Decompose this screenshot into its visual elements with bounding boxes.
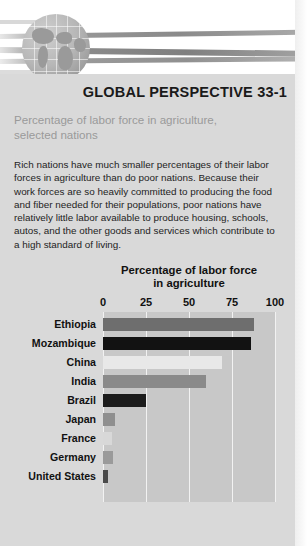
chart-row: China [0,354,295,373]
bar-chart: Percentage of labor force in agriculture… [0,258,295,538]
chart-bar [103,470,108,483]
chart-bar [103,432,112,445]
chart-row: India [0,373,295,392]
chart-category-label: France [0,432,96,444]
chart-row: Ethiopia [0,316,295,335]
page-title: GLOBAL PERSPECTIVE 33-1 [0,84,287,100]
chart-row: United States [0,468,295,487]
chart-row: Mozambique [0,335,295,354]
axis-tick-label: 0 [100,296,106,308]
chart-category-label: Germany [0,451,96,463]
axis-tick-label: 75 [226,296,238,308]
chart-bar [103,356,222,369]
axis-tick-label: 100 [266,296,284,308]
chart-bar [103,337,251,350]
chart-row: Brazil [0,392,295,411]
chart-bar [103,318,254,331]
chart-category-label: India [0,375,96,387]
chart-category-label: United States [0,470,96,482]
chart-plot-area: EthiopiaMozambiqueChinaIndiaBrazilJapanF… [0,312,295,502]
chart-bar [103,375,206,388]
page-subtitle: Percentage of labor force in agriculture… [14,112,282,142]
globe-icon [22,14,90,82]
body-paragraph: Rich nations have much smaller percentag… [14,158,282,251]
chart-row: Japan [0,411,295,430]
chart-category-label: Japan [0,413,96,425]
axis-tick-label: 25 [140,296,152,308]
chart-category-label: Ethiopia [0,318,96,330]
chart-title: Percentage of labor force in agriculture [98,264,280,290]
chart-row: France [0,430,295,449]
axis-tick-label: 50 [183,296,195,308]
chart-category-label: China [0,356,96,368]
chart-row: Germany [0,449,295,468]
chart-x-axis: 0255075100 [0,296,295,310]
chart-bar [103,413,115,426]
page-right-margin [295,0,307,557]
chart-category-label: Mozambique [0,337,96,349]
chart-category-label: Brazil [0,394,96,406]
chart-bar [103,394,146,407]
page-bottom-margin [0,546,307,557]
chart-bar [103,451,113,464]
